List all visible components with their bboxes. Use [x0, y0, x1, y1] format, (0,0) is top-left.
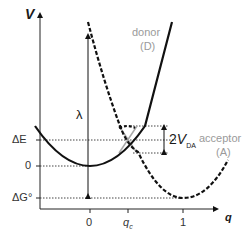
donor-upper-adiabatic [119, 126, 135, 128]
diagram-canvas [0, 0, 252, 241]
donor-label-abbrev: (D) [140, 40, 155, 52]
axes [36, 15, 216, 213]
qc-sub: c [129, 223, 133, 230]
y-axis-label: V [25, 6, 34, 22]
coupling-label: 2VDA [169, 131, 196, 149]
y-tick-label-zero: 0 [25, 159, 31, 171]
x-axis-label: q [225, 211, 232, 223]
y-tick-label-delta-g: ΔG° [12, 191, 32, 203]
acceptor-curve [88, 22, 228, 198]
coupling-sub: DA [186, 142, 196, 149]
donor-label: donor [132, 26, 160, 38]
y-tick-label-delta-e: ΔE [12, 133, 27, 145]
x-tick-label-zero: 0 [86, 216, 92, 228]
acceptor-label: acceptor [199, 132, 241, 144]
x-tick-label-qc: qc [123, 216, 133, 230]
coupling-prefix: 2 [169, 131, 177, 147]
coupling-var: V [177, 131, 186, 147]
x-tick-label-one: 1 [180, 216, 186, 228]
lambda-label: λ [76, 107, 83, 122]
guide-lines [40, 126, 180, 198]
acceptor-label-abbrev: (A) [216, 146, 231, 158]
